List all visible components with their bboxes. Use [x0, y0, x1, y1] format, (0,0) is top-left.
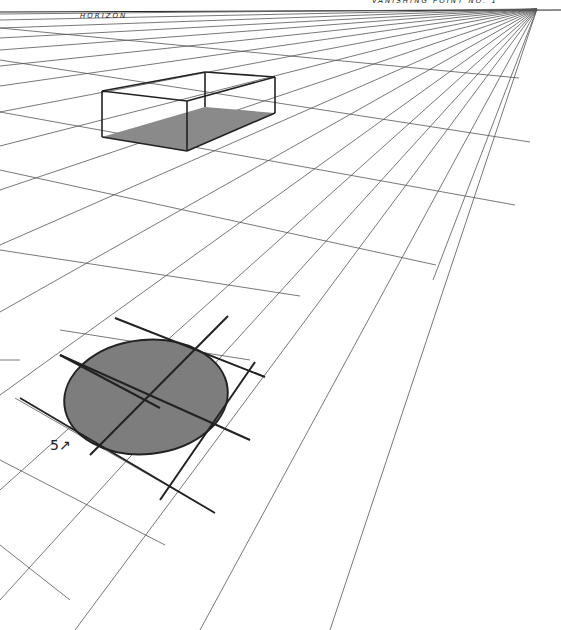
perspective-drawing: [0, 0, 561, 630]
vanishing-point-label: VANISHING POINT NO. 1: [372, 0, 498, 5]
step-number-label: 5↗: [50, 437, 71, 453]
shaded-circle: [20, 316, 265, 513]
perspective-grid: [0, 9, 561, 630]
rectangular-box: [102, 72, 275, 151]
horizon-label: HORIZON: [80, 12, 127, 20]
